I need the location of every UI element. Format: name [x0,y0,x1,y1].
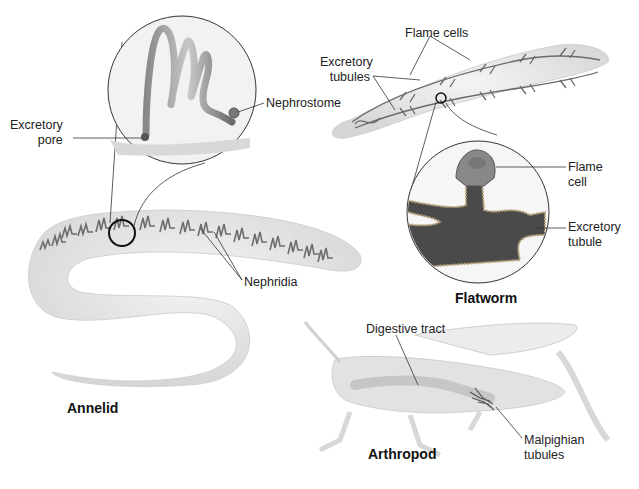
label-excretory-tubule-line1: Excretory [568,220,621,235]
label-excretory-tubules-line2: tubules [320,70,370,85]
title-annelid: Annelid [67,400,118,416]
nephridium-inset [108,16,256,226]
label-excretory-tubule: Excretory tubule [568,220,621,250]
label-flame-cells: Flame cells [405,26,468,41]
title-arthropod: Arthropod [368,446,436,462]
label-malpighian-line1: Malpighian [524,433,584,448]
flatworm-body [332,44,608,138]
label-excretory-pore: Excretory pore [10,118,63,148]
label-malpighian-tubules: Malpighian tubules [524,433,584,463]
label-malpighian-line2: tubules [524,448,584,463]
label-flame-cell-line1: Flame [568,160,603,175]
label-flame-cell-line2: cell [568,175,603,190]
label-excretory-tubules: Excretory tubules [320,55,370,85]
label-excretory-pore-line2: pore [10,133,63,148]
title-flatworm: Flatworm [455,290,517,306]
annelid-body [28,210,361,387]
label-excretory-tubules-line1: Excretory [320,55,370,70]
flame-cell-inset [380,102,566,283]
label-excretory-tubule-line2: tubule [568,235,621,250]
label-flame-cell: Flame cell [568,160,603,190]
label-excretory-pore-line1: Excretory [10,118,63,133]
label-digestive-tract: Digestive tract [366,322,445,337]
label-nephridia: Nephridia [244,275,298,290]
label-nephrostome: Nephrostome [266,96,341,111]
